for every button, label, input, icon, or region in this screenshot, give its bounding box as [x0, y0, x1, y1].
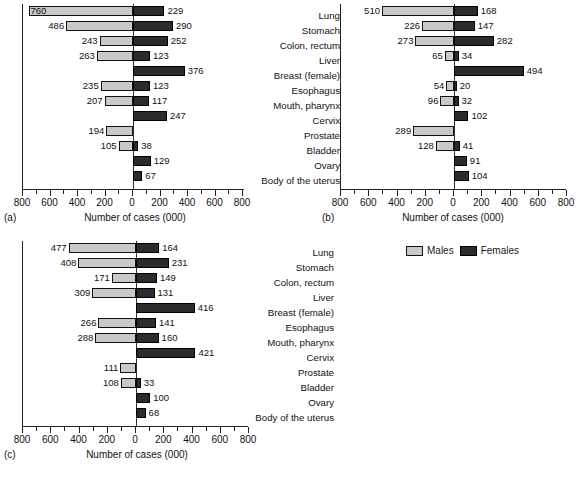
- bar-value-females: 20: [460, 80, 486, 91]
- category-label: Cervix: [222, 113, 340, 128]
- bar-value-males: 273: [391, 35, 413, 46]
- bar-value-females: 68: [149, 407, 175, 418]
- category-label: Esophagus: [222, 83, 340, 98]
- axis-tick-major: [215, 190, 216, 196]
- bar-females: [136, 258, 169, 268]
- axis-tick-major: [132, 190, 133, 196]
- category-label: Liver: [222, 290, 334, 305]
- bar-females: [133, 171, 142, 181]
- axis-tick-minor: [354, 190, 355, 194]
- bar-row: 9632: [341, 94, 566, 109]
- axis-tick-minor: [93, 427, 94, 431]
- category-label: Colon, rectum: [222, 275, 334, 290]
- legend-swatch-males-icon: [406, 246, 423, 256]
- bar-value-females: 160: [162, 332, 188, 343]
- bar-row: 171149: [23, 271, 248, 286]
- bar-value-females: 494: [527, 65, 553, 76]
- bar-males: [121, 378, 136, 388]
- bar-females: [454, 36, 494, 46]
- bar-value-females: 67: [145, 170, 171, 181]
- bar-row: 12841: [341, 139, 566, 154]
- axis-tick-minor: [177, 427, 178, 431]
- x-axis-title-a: Number of cases (000): [50, 212, 220, 224]
- axis-tick-major: [481, 190, 482, 196]
- bar-row: 10833: [23, 376, 248, 391]
- axis-tick-minor: [121, 427, 122, 431]
- axis-tick-minor: [64, 427, 65, 431]
- bar-males: [98, 318, 136, 328]
- axis-tick-major: [79, 427, 80, 433]
- bar-row: 309131: [23, 286, 248, 301]
- panel-b: 5101682261472732826534494542096321022891…: [340, 0, 587, 230]
- bar-females: [454, 6, 478, 16]
- category-label: Breast (female): [222, 305, 334, 320]
- bar-value-females: 282: [497, 35, 523, 46]
- bar-value-females: 41: [463, 140, 489, 151]
- bar-row: 207117: [23, 94, 244, 109]
- axis-tick-major: [22, 190, 23, 196]
- bar-females: [133, 21, 173, 31]
- bar-value-females: 247: [170, 110, 196, 121]
- plot-area-a: 7602294862902432522631233762351232071172…: [22, 4, 244, 190]
- bar-females: [454, 156, 467, 166]
- bar-females: [133, 66, 185, 76]
- bar-females: [136, 378, 141, 388]
- bar-value-females: 100: [153, 392, 179, 403]
- category-label: Body of the uterus: [222, 410, 334, 425]
- bar-value-females: 34: [462, 50, 488, 61]
- bar-value-males: 477: [45, 242, 67, 253]
- axis-tick-major: [22, 427, 23, 433]
- bar-row: 760229: [23, 4, 244, 19]
- axis-tick-minor: [524, 190, 525, 194]
- axis-tick-minor: [91, 190, 92, 194]
- bar-row: 100: [23, 391, 248, 406]
- bar-females: [454, 171, 469, 181]
- bar-row: 67: [23, 169, 244, 184]
- bar-males: [119, 141, 133, 151]
- bar-row: 486290: [23, 19, 244, 34]
- x-axis-b: 8006004002000200400600800: [340, 190, 566, 212]
- bar-males: [382, 6, 454, 16]
- axis-tick-minor: [36, 190, 37, 194]
- figure-root: { "figure": { "categories": [ "Lung", "S…: [0, 0, 587, 480]
- legend-entry-males: Males: [406, 245, 454, 257]
- category-label: Bladder: [222, 143, 340, 158]
- bar-row: 10538: [23, 139, 244, 154]
- bar-females: [133, 111, 167, 121]
- bar-row: 421: [23, 346, 248, 361]
- bar-row: 494: [341, 64, 566, 79]
- bar-value-females: 38: [141, 140, 167, 151]
- axis-tick-major: [192, 427, 193, 433]
- bar-males: [66, 21, 133, 31]
- bar-value-males: 207: [81, 95, 103, 106]
- bar-males: [106, 126, 133, 136]
- axis-tick-major: [368, 190, 369, 196]
- bar-females: [136, 243, 159, 253]
- legend-swatch-females-icon: [460, 246, 477, 256]
- bar-value-males: 263: [73, 50, 95, 61]
- axis-tick-major: [105, 190, 106, 196]
- bar-value-males: 289: [389, 125, 411, 136]
- axis-tick-major: [566, 190, 567, 196]
- axis-tick-major: [340, 190, 341, 196]
- axis-tick-major: [453, 190, 454, 196]
- bar-males: [95, 333, 136, 343]
- axis-tick-major: [425, 190, 426, 196]
- category-label: Prostate: [222, 365, 334, 380]
- bar-females: [454, 51, 459, 61]
- bar-males: [120, 363, 136, 373]
- bar-row: 266141: [23, 316, 248, 331]
- bar-value-females: 149: [160, 272, 186, 283]
- bar-females: [136, 273, 157, 283]
- bar-males: [105, 96, 133, 106]
- axis-tick-major: [160, 190, 161, 196]
- category-label: Stomach: [222, 23, 340, 38]
- bar-value-females: 141: [159, 317, 185, 328]
- axis-tick-minor: [467, 190, 468, 194]
- axis-tick-major: [397, 190, 398, 196]
- category-label: Mouth, pharynx: [222, 335, 334, 350]
- bar-row: 6534: [341, 49, 566, 64]
- bar-females: [454, 66, 524, 76]
- bar-females: [454, 21, 475, 31]
- x-axis-title-c: Number of cases (000): [52, 449, 222, 461]
